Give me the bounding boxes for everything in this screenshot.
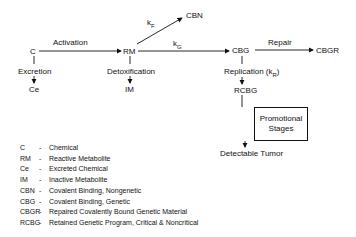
node-cbn: CBN — [186, 11, 203, 20]
node-cbgr: CBGR — [316, 46, 339, 55]
label-kf: kF — [147, 18, 155, 31]
legend-row: CBN-Covalent Binding, Nongenetic — [20, 186, 198, 197]
node-c: C — [30, 47, 36, 56]
label-excretion: Excretion — [18, 67, 51, 76]
node-cbg: CBG — [232, 46, 249, 55]
node-rm: RM — [123, 47, 135, 56]
legend-row: CBG-Covalent Binding, Genetic — [20, 197, 198, 208]
node-ce: Ce — [29, 85, 39, 94]
promo-line-2: Stages — [255, 124, 307, 134]
legend-row: CBGR-Repaired Covalently Bound Genetic M… — [20, 207, 198, 218]
label-detoxification: Detoxification — [107, 67, 155, 76]
legend-row: RM-Reactive Metabolite — [20, 154, 198, 165]
promo-line-1: Promotional — [255, 114, 307, 124]
legend-row: C-Chemical — [20, 143, 198, 154]
node-detectable-tumor: Detectable Tumor — [220, 149, 283, 158]
node-im: IM — [125, 85, 134, 94]
node-rcbg: RCBG — [234, 86, 257, 95]
label-activation: Activation — [53, 38, 88, 47]
label-repair: Repair — [268, 38, 292, 47]
legend: C-Chemical RM-Reactive Metabolite Ce-Exc… — [20, 143, 198, 229]
label-replication: Replication (kR) — [224, 67, 279, 80]
legend-row: IM-Inactive Metabolite — [20, 175, 198, 186]
legend-row: RCBG-Retained Genetic Program, Critical … — [20, 218, 198, 229]
legend-row: Ce-Excreted Chemical — [20, 164, 198, 175]
promotional-stages-box: Promotional Stages — [254, 107, 308, 141]
label-kg: kG — [173, 39, 182, 52]
